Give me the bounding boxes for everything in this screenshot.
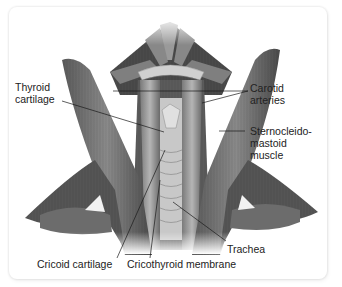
label-sternocleidomastoid-muscle: Sternocleido- mastoid muscle <box>250 125 312 161</box>
label-carotid-arteries: Carotid arteries <box>250 82 285 106</box>
label-cricoid-cartilage: Cricoid cartilage <box>37 258 112 270</box>
label-cricothyroid-membrane: Cricothyroid membrane <box>127 258 236 270</box>
label-trachea: Trachea <box>227 243 265 255</box>
label-thyroid-cartilage: Thyroid cartilage <box>15 81 55 105</box>
